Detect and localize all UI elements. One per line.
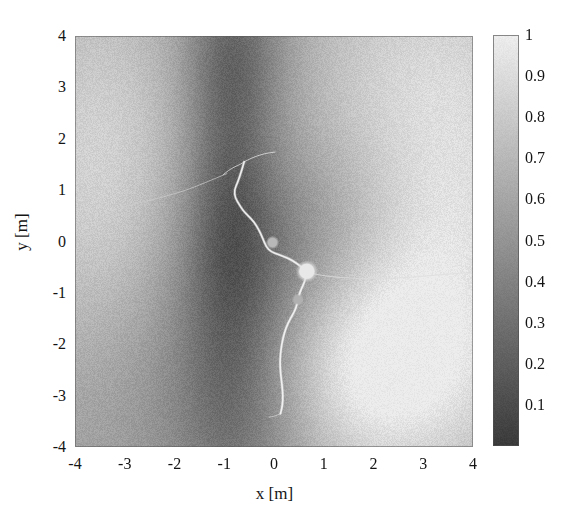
y-tick-label: -3 bbox=[30, 388, 66, 404]
x-tick-label: -2 bbox=[168, 456, 181, 472]
x-tick-label: 4 bbox=[469, 456, 477, 472]
heatmap-plot-area[interactable] bbox=[75, 36, 473, 447]
y-tick-label: -2 bbox=[30, 336, 66, 352]
colorbar-tick-label: 0.1 bbox=[525, 397, 545, 413]
colorbar-tick-label: 0.5 bbox=[525, 233, 545, 249]
y-tick-label: 3 bbox=[30, 79, 66, 95]
x-tick-label: 1 bbox=[320, 456, 328, 472]
colorbar-tick-label: 0.9 bbox=[525, 68, 545, 84]
x-tick-label: -3 bbox=[118, 456, 131, 472]
colorbar[interactable] bbox=[493, 35, 519, 446]
colorbar-tick-label: 0.2 bbox=[525, 356, 545, 372]
y-tick-label: 1 bbox=[30, 182, 66, 198]
x-tick-label: -1 bbox=[218, 456, 231, 472]
y-tick-label: -1 bbox=[30, 285, 66, 301]
colorbar-tick-label: 0.4 bbox=[525, 274, 545, 290]
trajectory-overlay bbox=[75, 36, 473, 447]
colorbar-tick-label: 1 bbox=[525, 27, 533, 43]
x-tick-label: 3 bbox=[419, 456, 427, 472]
x-tick-label: 0 bbox=[270, 456, 278, 472]
x-axis-title: x [m] bbox=[0, 484, 549, 504]
colorbar-gradient bbox=[493, 35, 519, 446]
y-tick-label: 4 bbox=[30, 28, 66, 44]
colorbar-tick-label: 0.8 bbox=[525, 109, 545, 125]
colorbar-tick-label: 0.3 bbox=[525, 315, 545, 331]
x-tick-label: -4 bbox=[68, 456, 81, 472]
colorbar-tick-label: 0.6 bbox=[525, 191, 545, 207]
y-tick-label: -4 bbox=[30, 439, 66, 455]
y-axis-title: y [m] bbox=[12, 182, 32, 282]
colorbar-tick-label: 0.7 bbox=[525, 150, 545, 166]
y-tick-label: 2 bbox=[30, 131, 66, 147]
y-tick-label: 0 bbox=[30, 234, 66, 250]
x-tick-label: 2 bbox=[370, 456, 378, 472]
figure-root: 43210-1-2-3-4 -4-3-2-101234 x [m] y [m] … bbox=[0, 0, 565, 517]
